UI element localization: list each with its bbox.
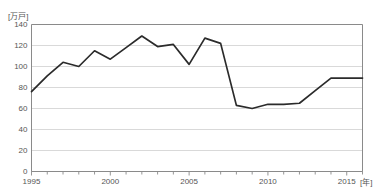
- x-tick-label: 2005: [174, 177, 204, 186]
- line-chart: [万戸] [年] 020406080100120140 199520002005…: [0, 0, 383, 194]
- y-tick-label: 0: [6, 167, 28, 176]
- y-tick-label: 140: [6, 20, 28, 29]
- x-tick-label: 1995: [17, 177, 47, 186]
- gridlines: [32, 25, 363, 172]
- plot-area: [0, 0, 383, 194]
- y-tick-label: 60: [6, 104, 28, 113]
- data-series: [32, 36, 363, 108]
- x-tick-label: 2015: [332, 177, 362, 186]
- y-tick-label: 80: [6, 83, 28, 92]
- series-line: [32, 36, 363, 108]
- x-tick-label: 2000: [95, 177, 125, 186]
- y-tick-label: 20: [6, 146, 28, 155]
- x-tick-label: 2010: [253, 177, 283, 186]
- y-tick-label: 120: [6, 41, 28, 50]
- y-tick-label: 40: [6, 125, 28, 134]
- y-tick-label: 100: [6, 62, 28, 71]
- x-axis-ticks: [32, 172, 363, 176]
- axis-lines: [32, 25, 363, 172]
